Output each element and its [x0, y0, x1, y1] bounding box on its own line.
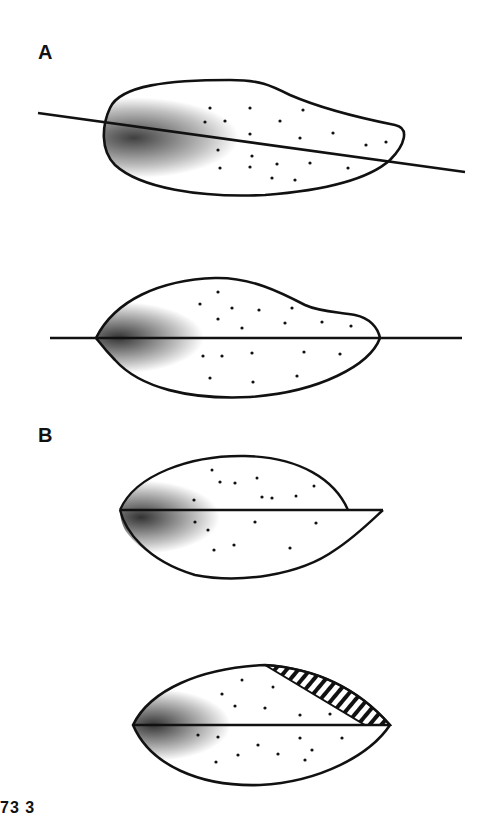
seed-oblique-section — [38, 80, 465, 196]
seed-split-hatched — [133, 665, 390, 785]
seed-horizontal-section — [50, 278, 462, 397]
seed-split-offset — [120, 456, 383, 579]
